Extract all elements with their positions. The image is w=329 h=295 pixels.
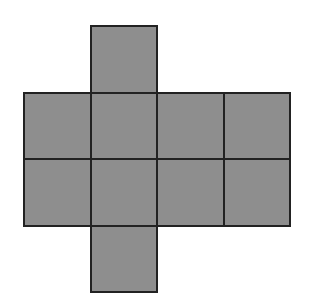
square-cell — [23, 158, 92, 227]
square-cell — [156, 92, 225, 160]
square-cell — [90, 92, 158, 160]
square-cell — [223, 92, 291, 160]
square-cell — [223, 158, 291, 227]
square-cell — [90, 225, 158, 293]
square-cell — [156, 158, 225, 227]
square-cell — [23, 92, 92, 160]
square-cell — [90, 25, 158, 94]
square-net-diagram — [0, 0, 329, 295]
square-cell — [90, 158, 158, 227]
